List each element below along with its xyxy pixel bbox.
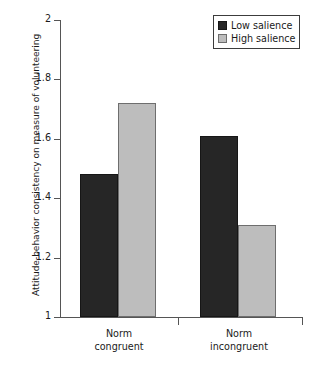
x-group-label-line1: Norm [174, 328, 304, 341]
x-group-label-norm-incongruent: Norm incongruent [174, 328, 304, 353]
y-tick-1-8: 1.8 [54, 79, 60, 80]
bar-norm-incongruent-high-salience[interactable] [238, 225, 276, 317]
chart-legend: Low salience High salience [213, 15, 300, 49]
y-tick-label-1-2: 1.2 [36, 251, 51, 262]
y-tick-1-2: 1.2 [54, 258, 60, 259]
legend-label-high-salience: High salience [231, 33, 295, 44]
legend-item-high-salience[interactable]: High salience [218, 32, 295, 45]
y-tick-2: 2 [54, 20, 60, 21]
x-axis-line [60, 317, 303, 318]
legend-item-low-salience[interactable]: Low salience [218, 19, 295, 32]
x-tick-mid [178, 318, 179, 325]
y-tick-label-1-6: 1.6 [36, 132, 51, 143]
bar-norm-congruent-low-salience[interactable] [80, 174, 118, 317]
light-swatch-icon [218, 34, 227, 43]
x-group-label-line2: congruent [54, 341, 184, 354]
y-tick-label-1-8: 1.8 [36, 72, 51, 83]
y-tick-1-6: 1.6 [54, 139, 60, 140]
dark-swatch-icon [218, 21, 227, 30]
bar-chart-figure: Attitude-behavior consistency on measure… [0, 0, 312, 372]
x-group-label-line1: Norm [54, 328, 184, 341]
y-tick-label-1-4: 1.4 [36, 191, 51, 202]
x-group-label-line2: incongruent [174, 341, 304, 354]
legend-label-low-salience: Low salience [231, 20, 292, 31]
bar-norm-incongruent-low-salience[interactable] [200, 136, 238, 317]
y-tick-1-4: 1.4 [54, 198, 60, 199]
y-tick-label-2: 2 [45, 13, 51, 24]
x-tick-end [302, 318, 303, 325]
bar-norm-congruent-high-salience[interactable] [118, 103, 156, 317]
plot-area: 2 1.8 1.6 1.4 1.2 1 Norm congruent [60, 20, 303, 317]
y-axis-title: Attitude-behavior consistency on measure… [31, 20, 41, 310]
y-axis-line [60, 20, 61, 318]
y-tick-label-1: 1 [45, 310, 51, 321]
y-tick-1: 1 [54, 317, 60, 318]
x-group-label-norm-congruent: Norm congruent [54, 328, 184, 353]
